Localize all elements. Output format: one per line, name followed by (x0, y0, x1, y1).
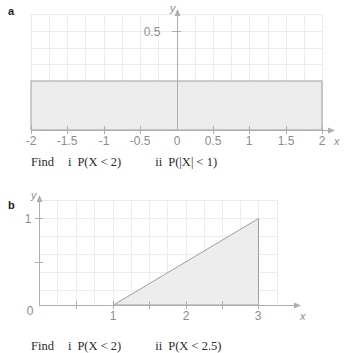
question-a-expression-ii: P(|X| < 1) (168, 155, 217, 169)
chart-a-x-tick-label-7: 1.5 (278, 134, 295, 148)
question-b-numeral-ii: ii (155, 339, 162, 353)
chart-a-x-tick-label-5: 0.5 (205, 134, 222, 148)
chart-b-x-tick-label-2: 2 (183, 309, 190, 323)
chart-a-x-tick-label-1: -1.5 (57, 134, 78, 148)
chart-b-y-tick-label-1: 1 (25, 212, 32, 226)
question-a-numeral-i: i (68, 155, 71, 169)
panel-a: a (0, 0, 345, 178)
chart-a-x-tick-label-4: 0 (174, 134, 181, 148)
chart-b-x-axis-label: x (299, 310, 306, 322)
chart-b: y 1 0 1 2 3 x (0, 192, 345, 332)
chart-a-x-tick-label-2: -1 (99, 134, 110, 148)
chart-a-y-axis-label: y (169, 2, 177, 14)
chart-b-y-axis-label: y (30, 192, 38, 201)
question-b-numeral-i: i (68, 339, 71, 353)
panel-b: b (0, 178, 345, 352)
question-b-expression-i: P(X < 2) (77, 339, 121, 353)
chart-a-x-axis-label: x (333, 135, 340, 147)
chart-a-x-tick-label-8: 2 (319, 134, 326, 148)
chart-a-svg: y 0.5 -2 -1.5 -1 -0.5 0 0.5 1 1.5 2 x (0, 0, 345, 148)
chart-b-x-tick-label-3: 3 (255, 309, 262, 323)
chart-b-y-axis-arrow (37, 195, 43, 202)
question-line-b: FindiP(X < 2)iiP(X < 2.5) (31, 340, 221, 353)
chart-b-svg: y 1 0 1 2 3 x (0, 192, 345, 332)
question-line-a: FindiP(X < 2)iiP(|X| < 1) (31, 156, 217, 169)
chart-a-x-tick-label-6: 1 (246, 134, 253, 148)
question-a-keyword: Find (31, 155, 54, 169)
chart-a-x-axis-arrow (328, 128, 335, 134)
chart-b-x-tick-label-1: 1 (110, 309, 117, 323)
chart-a-x-tick-label-0: -2 (26, 134, 37, 148)
question-a-expression-i: P(X < 2) (77, 155, 121, 169)
question-b-keyword: Find (31, 339, 54, 353)
question-b-expression-ii: P(X < 2.5) (168, 339, 221, 353)
question-a-numeral-ii: ii (155, 155, 162, 169)
chart-a-x-tick-label-3: -0.5 (130, 134, 151, 148)
chart-b-x-axis-arrow (294, 303, 301, 309)
chart-a-density-region (31, 81, 322, 130)
chart-b-y-tick-label-0: 0 (27, 304, 34, 318)
chart-a: y 0.5 -2 -1.5 -1 -0.5 0 0.5 1 1.5 2 x (0, 0, 345, 148)
chart-a-y-tick-label-0: 0.5 (144, 25, 161, 39)
